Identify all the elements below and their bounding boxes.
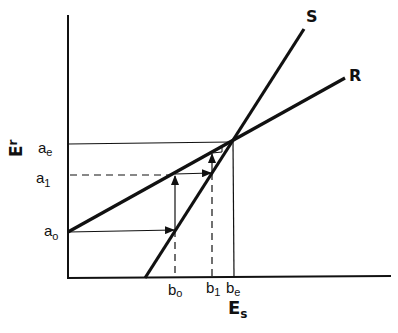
svg-text:Er: Er <box>6 139 26 157</box>
equilibrium-horizontal-guide <box>68 142 231 144</box>
label-r: R <box>349 66 361 85</box>
tick-label-b-e: be <box>226 279 240 298</box>
x-axis-label: Es <box>228 297 247 321</box>
label-s: S <box>306 7 318 26</box>
tick-label-a-e: ae <box>38 139 52 158</box>
tick-label-b-0: bo <box>168 281 182 299</box>
line-s <box>145 29 304 278</box>
cobweb-diagram: S R Er Es ae a1 ao bo b1 be <box>0 0 398 333</box>
line-r <box>68 78 345 232</box>
arrow-a1-to-s <box>175 173 211 174</box>
tick-label-a-0: ao <box>44 222 58 242</box>
arrow-a0-to-s <box>68 230 174 232</box>
equilibrium-vertical-guide <box>233 142 234 277</box>
tick-label-b-1: b1 <box>206 279 220 298</box>
tick-label-a-1: a1 <box>36 169 50 189</box>
x-axis <box>67 276 391 278</box>
y-axis-label: Er <box>6 139 26 157</box>
